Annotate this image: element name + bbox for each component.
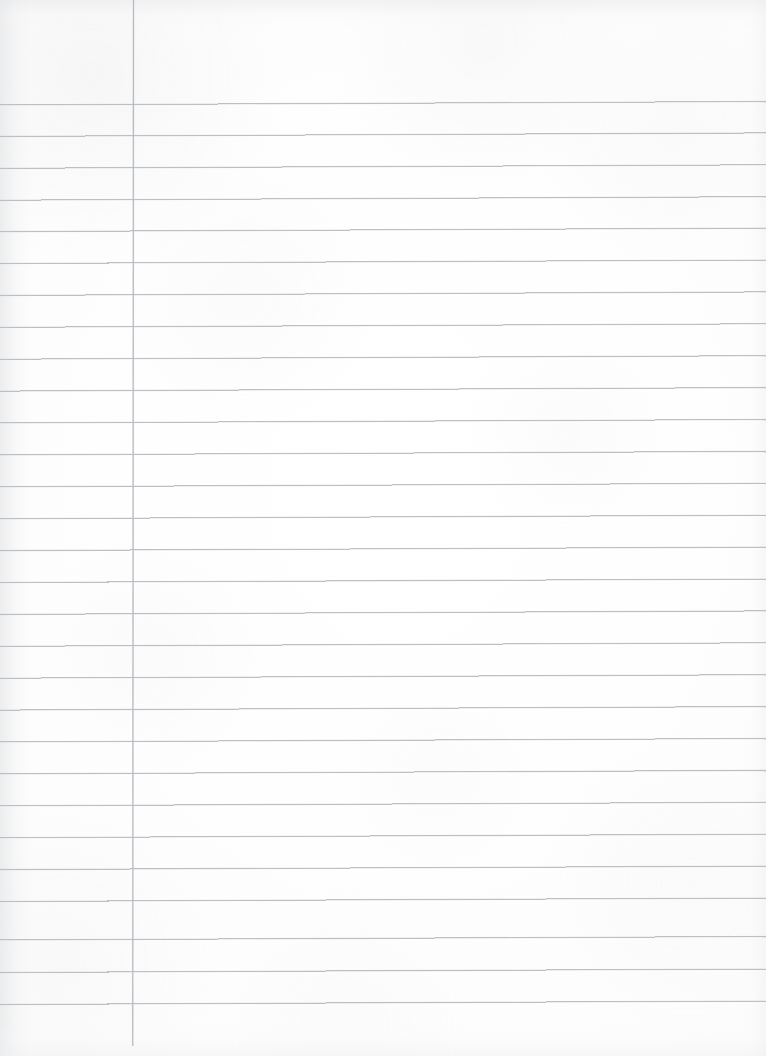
notebook-page [0,0,766,1056]
left-margin-column[interactable] [0,105,134,1005]
footer-blank-space[interactable] [0,1005,766,1056]
header-blank-space[interactable] [0,0,766,105]
ruled-writing-body[interactable] [134,105,766,1005]
